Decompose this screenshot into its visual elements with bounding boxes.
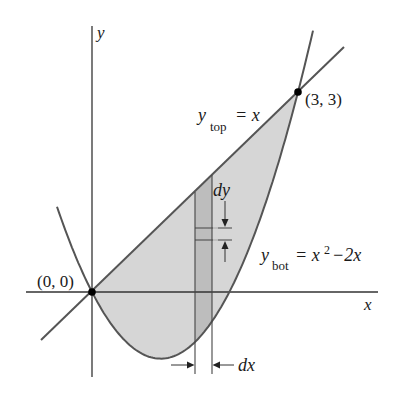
- point-origin-label: (0, 0): [37, 272, 74, 291]
- dx-arrow-left: [213, 362, 235, 369]
- x-axis-label: x: [363, 295, 372, 314]
- svg-text:= x: = x: [295, 245, 320, 265]
- label-y-top-equation: y top = x: [196, 105, 260, 134]
- point-intersection: [294, 88, 302, 96]
- svg-text:y: y: [259, 245, 269, 265]
- svg-text:y: y: [196, 105, 206, 125]
- svg-text:−2x: −2x: [332, 245, 361, 265]
- point-intersection-label: (3, 3): [305, 90, 342, 109]
- dy-label: dy: [213, 180, 230, 200]
- dx-arrow-right: [171, 362, 195, 369]
- y-axis-label: y: [95, 23, 105, 42]
- area-between-curves-diagram: y x (0, 0) (3, 3) y top = x y bot = x 2 …: [0, 0, 395, 398]
- svg-text:2: 2: [324, 243, 330, 257]
- svg-text:= x: = x: [235, 105, 260, 125]
- point-origin: [88, 288, 96, 296]
- svg-text:top: top: [210, 119, 227, 134]
- dx-label: dx: [238, 355, 255, 375]
- svg-text:bot: bot: [272, 258, 289, 273]
- vertical-strip-dx: [195, 175, 212, 342]
- label-y-bot-equation: y bot = x 2 −2x: [259, 243, 361, 273]
